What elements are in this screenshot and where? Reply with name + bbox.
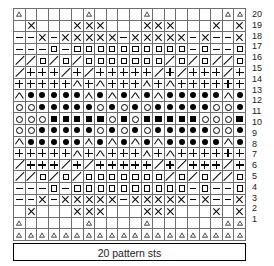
chart-cell [71, 182, 83, 194]
dot-icon [49, 90, 60, 101]
chart-cell [60, 20, 72, 32]
x-icon [142, 32, 153, 43]
plus-icon [37, 79, 48, 90]
chart-cell [211, 101, 223, 113]
chart-cell [141, 136, 153, 148]
chart-cell [141, 148, 153, 160]
dash-icon [26, 183, 37, 194]
plus-icon [95, 160, 106, 171]
chart-cell [83, 32, 95, 44]
chart-cell [211, 90, 223, 102]
chart-cell [118, 194, 130, 206]
circ-icon [130, 113, 141, 124]
chart-cell [199, 9, 211, 21]
tri-icon [60, 229, 71, 240]
chart-cell [14, 78, 26, 90]
row-number: 17 [252, 41, 262, 52]
caret-icon [72, 148, 83, 159]
dot-icon [107, 125, 118, 136]
blank-icon [72, 9, 83, 20]
chart-cell [141, 229, 153, 241]
caret-icon [72, 79, 83, 90]
dot-icon [142, 137, 153, 148]
plus-icon [234, 79, 245, 90]
chart-cell [106, 159, 118, 171]
sq-icon [118, 171, 129, 182]
chart-cell [187, 159, 199, 171]
row-number: 14 [252, 74, 262, 85]
tri-icon [72, 229, 83, 240]
chart-cell [222, 182, 234, 194]
slash-icon [188, 55, 199, 66]
chart-cell [37, 124, 49, 136]
sq-icon [84, 44, 95, 55]
chart-cell [71, 136, 83, 148]
plus-icon [142, 67, 153, 78]
chart-cell [106, 113, 118, 125]
row-number: 19 [252, 20, 262, 31]
dot-icon [72, 125, 83, 136]
chart-cell [187, 90, 199, 102]
x-icon [95, 21, 106, 32]
chart-cell [176, 206, 188, 218]
chart-cell [199, 182, 211, 194]
tri-icon [37, 229, 48, 240]
dot-icon [26, 137, 37, 148]
chart-cell [234, 66, 246, 78]
tri-icon [49, 229, 60, 240]
sq-icon [107, 55, 118, 66]
x-icon [72, 32, 83, 43]
chart-cell [48, 113, 60, 125]
chart-cell [234, 9, 246, 21]
chart-row [14, 124, 246, 136]
chart-cell [141, 90, 153, 102]
sq-icon [37, 171, 48, 182]
chart-cell [83, 194, 95, 206]
chart-cell [48, 124, 60, 136]
chart-cell [95, 78, 107, 90]
chart-cell [176, 66, 188, 78]
chart-cell [71, 206, 83, 218]
chart-cell [37, 217, 49, 229]
circ-icon [223, 125, 234, 136]
chart-cell [222, 90, 234, 102]
dash-icon [223, 32, 234, 43]
caret-icon [84, 137, 95, 148]
chart-cell [176, 136, 188, 148]
dash-icon [211, 183, 222, 194]
plus-icon [165, 67, 176, 78]
plus-icon [153, 79, 164, 90]
tri-icon [130, 229, 141, 240]
chart-cell [60, 229, 72, 241]
dot-icon [234, 137, 245, 148]
chart-cell [37, 136, 49, 148]
blank-icon [118, 9, 129, 20]
sq-icon [200, 183, 211, 194]
slash-icon [223, 67, 234, 78]
circ-icon [95, 125, 106, 136]
slash-icon [14, 171, 25, 182]
chart-cell [211, 159, 223, 171]
chart-cell [25, 159, 37, 171]
chart-cell [71, 20, 83, 32]
dot-icon [60, 137, 71, 148]
dot-icon [165, 102, 176, 113]
chart-cell [187, 171, 199, 183]
slash-icon [223, 171, 234, 182]
chart-cell [95, 20, 107, 32]
x-icon [165, 32, 176, 43]
chart-cell [129, 9, 141, 21]
x-icon [165, 21, 176, 32]
chart-cell [95, 159, 107, 171]
chart-cell [153, 206, 165, 218]
caret-icon [107, 137, 118, 148]
chart-cell [118, 159, 130, 171]
slash-icon [26, 55, 37, 66]
slash-icon [14, 160, 25, 171]
chart-row [14, 78, 246, 90]
fsq-icon [188, 113, 199, 124]
chart-cell [176, 194, 188, 206]
chart-cell [153, 124, 165, 136]
sq-icon [142, 171, 153, 182]
dash-icon [223, 183, 234, 194]
